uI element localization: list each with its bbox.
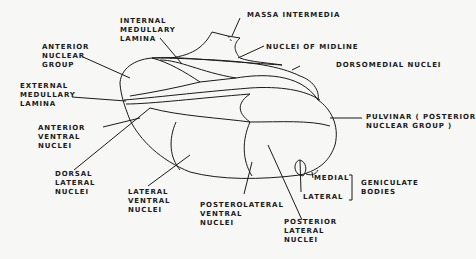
label-line: LATERAL [284, 227, 324, 235]
label-line: LAMINA [20, 100, 56, 108]
label-line: EXTERNAL [20, 82, 68, 90]
label-anterior-ventral-nuclei: ANTERIOR VENTRAL NUCLEI [38, 124, 85, 151]
label-line: VENTRAL [200, 210, 242, 218]
label-dorsal-lateral-nuclei: DORSAL LATERAL NUCLEI [55, 170, 95, 197]
label-massa-intermedia: MASSA INTERMEDIA [247, 11, 340, 20]
label-lateral-ventral-nuclei: LATERAL VENTRAL NUCLEI [128, 188, 170, 215]
label-lateral: LATERAL [303, 193, 343, 202]
label-line: NUCLEI [200, 219, 234, 227]
label-posterior-lateral-nuclei: POSTERIOR LATERAL NUCLEI [284, 218, 337, 245]
label-geniculate-bodies: GENICULATE BODIES [361, 179, 419, 197]
label-line: LATERAL [128, 188, 168, 196]
label-line: GROUP [42, 61, 74, 69]
label-line: VENTRAL [38, 133, 80, 141]
label-line: VENTRAL [128, 197, 170, 205]
label-line: LATERAL [55, 179, 95, 187]
label-nuclei-of-midline: NUCLEI OF MIDLINE [266, 43, 359, 52]
label-line: DORSAL [55, 170, 92, 178]
label-line: MEDULLARY [120, 26, 176, 34]
label-internal-medullary-lamina: INTERNAL MEDULLARY LAMINA [120, 17, 176, 44]
label-line: NUCLEAR GROUP ) [366, 122, 452, 130]
label-line: LAMINA [120, 35, 156, 43]
label-line: ANTERIOR [38, 124, 85, 132]
label-line: NUCLEI [55, 188, 89, 196]
label-line: ANTERIOR [42, 43, 89, 51]
label-pulvinar: PULVINAR ( POSTERIOR NUCLEAR GROUP ) [366, 113, 476, 131]
label-line: POSTERIOR [284, 218, 337, 226]
label-line: BODIES [361, 188, 396, 196]
label-external-medullary-lamina: EXTERNAL MEDULLARY LAMINA [20, 82, 76, 109]
label-posterolateral-ventral-nuclei: POSTEROLATERAL VENTRAL NUCLEI [200, 201, 284, 228]
label-line: NUCLEI [128, 206, 162, 214]
label-line: INTERNAL [120, 17, 166, 25]
label-line: NUCLEAR [42, 52, 85, 60]
label-line: NUCLEI [284, 236, 318, 244]
label-line: MEDULLARY [20, 91, 76, 99]
label-line: POSTEROLATERAL [200, 201, 284, 209]
label-line: NUCLEI [38, 142, 72, 150]
label-line: GENICULATE [361, 179, 419, 187]
label-anterior-nuclear-group: ANTERIOR NUCLEAR GROUP [42, 43, 89, 70]
internal-medullary-lamina [152, 58, 318, 100]
label-line: PULVINAR ( POSTERIOR [366, 113, 476, 121]
label-dorsomedial-nuclei: DORSOMEDIAL NUCLEI [336, 61, 441, 70]
label-medial: MEDIAL [314, 174, 349, 183]
